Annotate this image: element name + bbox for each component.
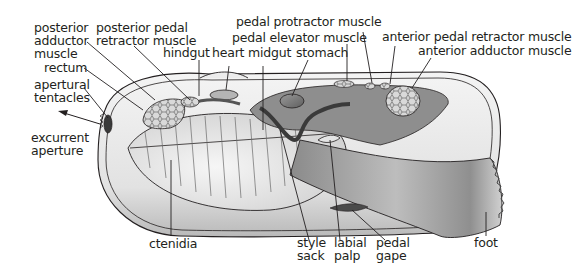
label-pedal-gape: pedal gape (376, 236, 410, 262)
label-posterior-adductor-muscle: posterior adductor muscle (34, 21, 88, 60)
label-style-sack: style sack (297, 236, 326, 262)
label-anterior-adductor-muscle: anterior adductor muscle (418, 44, 571, 57)
label-heart: heart (212, 46, 244, 59)
label-foot: foot (474, 236, 498, 249)
label-hindgut: hindgut (163, 46, 210, 59)
label-pedal-protractor-muscle: pedal protractor muscle (236, 15, 381, 28)
label-labial-palp: labial palp (334, 236, 366, 262)
excurrent-flow-arrow (58, 110, 100, 124)
label-rectum: rectum (44, 61, 87, 74)
label-excurrent-aperture: excurrent aperture (31, 131, 89, 157)
label-ctenidia: ctenidia (149, 237, 197, 250)
label-pedal-elevator-muscle: pedal elevator muscle (232, 31, 367, 44)
label-stomach: stomach (296, 46, 348, 59)
label-apertural-tentacles: apertural tentacles (34, 78, 90, 104)
label-anterior-pedal-retractor-muscle: anterior pedal retractor muscle (382, 30, 571, 43)
label-midgut: midgut (248, 46, 291, 59)
label-posterior-pedal-retractor-muscle: posterior pedal retractor muscle (96, 21, 196, 47)
